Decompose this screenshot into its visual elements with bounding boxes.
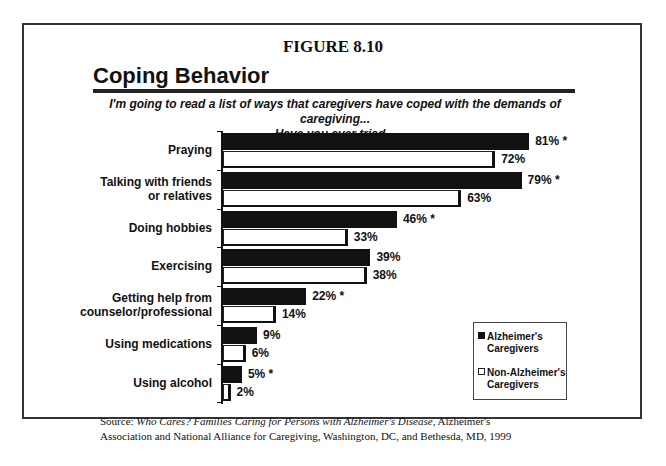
bar-alzheimers [223, 366, 242, 383]
value-label: 39% [376, 250, 400, 264]
value-label: 22% * [312, 289, 344, 303]
bar-non-alzheimers [223, 190, 461, 207]
axis-tick [217, 402, 222, 403]
value-label: 33% [354, 230, 378, 244]
value-label: 38% [373, 268, 397, 282]
bar-alzheimers [223, 211, 397, 228]
figure-label: FIGURE 8.10 [0, 37, 666, 57]
value-label: 6% [252, 346, 269, 360]
axis-tick [217, 364, 222, 365]
legend-swatch-empty-icon [478, 368, 485, 375]
bar-alzheimers [223, 133, 529, 150]
legend-item-alzheimers: Alzheimer's Caregivers [478, 331, 543, 355]
value-label: 5% * [248, 367, 273, 381]
bar-alzheimers [223, 172, 522, 189]
bar-non-alzheimers [223, 267, 367, 284]
axis-tick [217, 247, 222, 248]
value-label: 72% [501, 152, 525, 166]
bar-non-alzheimers [223, 384, 231, 401]
axis-tick [217, 209, 222, 210]
bar-alzheimers [223, 327, 257, 344]
chart-title: Coping Behavior [93, 63, 269, 89]
bar-non-alzheimers [223, 306, 276, 323]
title-rule [93, 89, 575, 93]
subtitle-line-1: I'm going to read a list of ways that ca… [80, 97, 590, 127]
legend-item-non-alzheimers: Non-Alzheimer's Caregivers [478, 367, 566, 391]
value-label: 79% * [528, 173, 560, 187]
axis-tick [217, 170, 222, 171]
axis-tick [217, 131, 222, 132]
category-label: Exercising [40, 259, 212, 273]
category-label: Using alcohol [40, 376, 212, 390]
bar-non-alzheimers [223, 229, 348, 246]
value-label: 81% * [535, 134, 567, 148]
axis-tick [217, 325, 222, 326]
category-label: Using medications [40, 337, 212, 351]
bar-alzheimers [223, 288, 306, 305]
bar-alzheimers [223, 249, 370, 266]
legend-swatch-filled-icon [478, 332, 485, 339]
category-label: Praying [40, 143, 212, 157]
value-label: 14% [282, 307, 306, 321]
axis-tick [217, 286, 222, 287]
category-label: Talking with friendsor relatives [40, 175, 212, 203]
value-label: 46% * [403, 212, 435, 226]
bar-non-alzheimers [223, 345, 246, 362]
value-label: 63% [467, 191, 491, 205]
category-label: Doing hobbies [40, 221, 212, 235]
bar-non-alzheimers [223, 151, 495, 168]
category-label: Getting help fromcounselor/professional [40, 291, 212, 319]
legend: Alzheimer's Caregivers Non-Alzheimer's C… [473, 322, 567, 400]
source-citation: Source: Who Cares? Families Caring for P… [100, 414, 620, 444]
value-label: 9% [263, 328, 280, 342]
value-label: 2% [237, 385, 254, 399]
